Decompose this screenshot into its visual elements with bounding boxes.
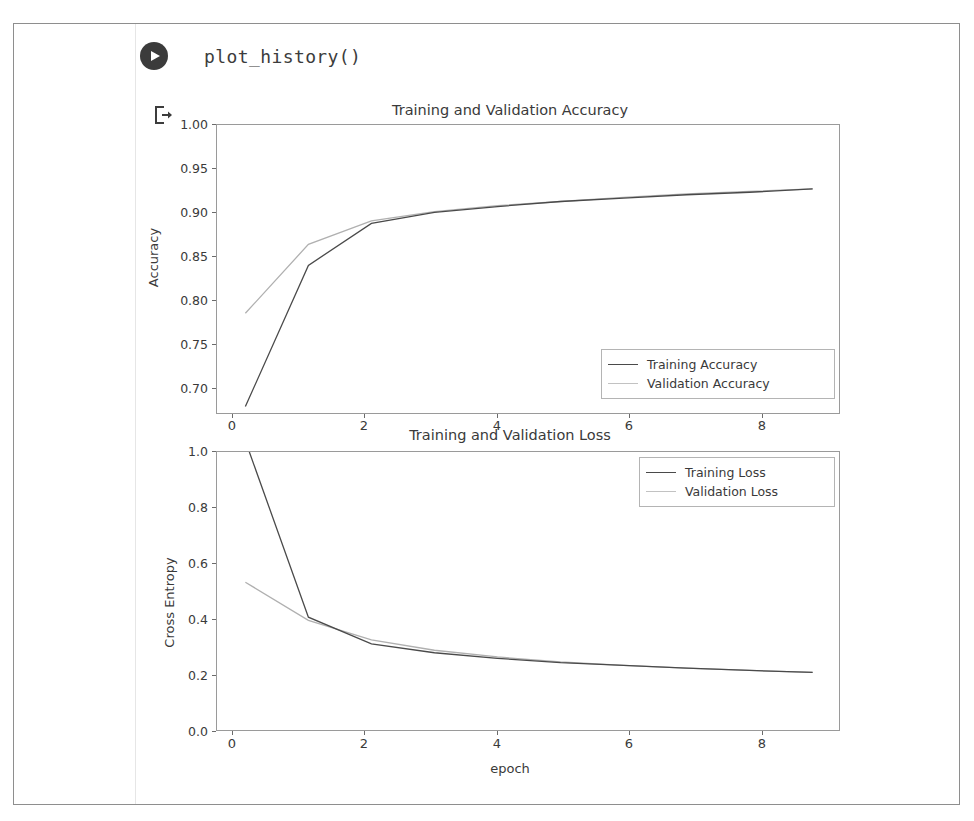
accuracy-y-axis-label: Accuracy bbox=[146, 228, 161, 287]
legend-item: Validation Accuracy bbox=[608, 374, 826, 393]
loss-legend: Training Loss Validation Loss bbox=[639, 457, 835, 507]
loss-xtick-mark bbox=[629, 731, 630, 735]
accuracy-ytick-label: 0.95 bbox=[164, 161, 208, 176]
legend-swatch-validation-accuracy bbox=[608, 383, 638, 384]
legend-label: Training Accuracy bbox=[647, 357, 757, 372]
loss-ytick-label: 0.0 bbox=[164, 724, 208, 739]
accuracy-ytick-label: 0.80 bbox=[164, 293, 208, 308]
accuracy-ytick-label: 0.90 bbox=[164, 205, 208, 220]
loss-xtick-label: 4 bbox=[493, 736, 501, 751]
loss-ytick-mark bbox=[212, 731, 216, 732]
play-circle-icon[interactable] bbox=[140, 42, 168, 70]
loss-ytick-label: 0.2 bbox=[164, 668, 208, 683]
legend-swatch-training-accuracy bbox=[608, 364, 638, 365]
loss-chart-title: Training and Validation Loss bbox=[150, 427, 870, 443]
loss-ytick-label: 0.8 bbox=[164, 500, 208, 515]
loss-xtick-mark bbox=[497, 731, 498, 735]
code-cell-source[interactable]: plot_history() bbox=[204, 46, 361, 67]
loss-xtick-label: 0 bbox=[228, 736, 236, 751]
loss-xtick-mark bbox=[762, 731, 763, 735]
loss-xtick-mark bbox=[364, 731, 365, 735]
accuracy-ytick-label: 1.00 bbox=[164, 117, 208, 132]
legend-swatch-training-loss bbox=[646, 472, 676, 473]
legend-label: Training Loss bbox=[685, 465, 766, 480]
loss-ytick-label: 0.6 bbox=[164, 556, 208, 571]
accuracy-ytick-label: 0.70 bbox=[164, 381, 208, 396]
notebook-cell-gutter bbox=[135, 24, 136, 804]
loss-x-axis-label: epoch bbox=[150, 761, 870, 776]
loss-xtick-mark bbox=[232, 731, 233, 735]
legend-item: Training Loss bbox=[646, 463, 826, 482]
legend-label: Validation Loss bbox=[685, 484, 778, 499]
loss-ytick-label: 1.0 bbox=[164, 444, 208, 459]
loss-y-axis-label: Cross Entropy bbox=[162, 557, 177, 647]
loss-ytick-label: 0.4 bbox=[164, 612, 208, 627]
accuracy-chart-title: Training and Validation Accuracy bbox=[150, 102, 870, 118]
loss-chart: Training and Validation Loss Cross Entro… bbox=[150, 425, 870, 800]
accuracy-ytick-label: 0.85 bbox=[164, 249, 208, 264]
validation-loss-line bbox=[245, 582, 812, 672]
accuracy-chart: Training and Validation Accuracy Accurac… bbox=[150, 100, 870, 430]
accuracy-legend: Training Accuracy Validation Accuracy bbox=[601, 349, 835, 399]
matplotlib-figure: Training and Validation Accuracy Accurac… bbox=[150, 100, 870, 800]
loss-xtick-label: 2 bbox=[360, 736, 368, 751]
legend-item: Validation Loss bbox=[646, 482, 826, 501]
legend-swatch-validation-loss bbox=[646, 491, 676, 492]
accuracy-ytick-label: 0.75 bbox=[164, 337, 208, 352]
loss-xtick-label: 8 bbox=[758, 736, 766, 751]
code-cell: plot_history() bbox=[140, 33, 361, 79]
loss-xtick-label: 6 bbox=[625, 736, 633, 751]
legend-label: Validation Accuracy bbox=[647, 376, 770, 391]
play-triangle bbox=[151, 51, 160, 61]
legend-item: Training Accuracy bbox=[608, 355, 826, 374]
